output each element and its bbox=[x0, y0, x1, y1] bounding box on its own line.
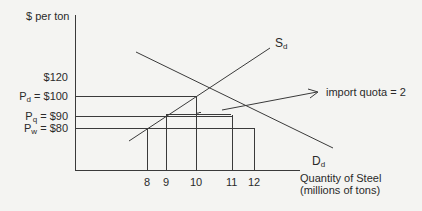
demand-label: Dd bbox=[312, 155, 325, 167]
x-tick-9: 9 bbox=[163, 176, 169, 188]
x-tick-11: 11 bbox=[226, 176, 237, 188]
supply-curve bbox=[129, 48, 270, 141]
y-tick-pd: Pd = $100 bbox=[10, 90, 68, 102]
steel-import-quota-chart: $ per ton $120 Pd = $100 Pq = $90 Pw = $… bbox=[0, 0, 422, 211]
supply-symbol: S bbox=[275, 36, 283, 50]
pd-value: = $100 bbox=[31, 90, 68, 102]
pw-value: = $80 bbox=[37, 122, 68, 134]
pq-symbol: P bbox=[25, 110, 32, 122]
supply-subscript: d bbox=[283, 42, 287, 51]
x-tick-10: 10 bbox=[190, 176, 202, 188]
x-axis-label-line2: (millions of tons) bbox=[300, 184, 380, 196]
y-tick-pw: Pw = $80 bbox=[10, 122, 68, 134]
demand-curve bbox=[136, 52, 333, 148]
pd-symbol: P bbox=[19, 90, 26, 102]
pq-value: = $90 bbox=[37, 110, 68, 122]
y-axis-label: $ per ton bbox=[26, 10, 69, 22]
supply-label: Sd bbox=[275, 37, 287, 49]
x-tick-8: 8 bbox=[144, 176, 150, 188]
y-tick-pq: Pq = $90 bbox=[10, 110, 68, 122]
demand-symbol: D bbox=[312, 154, 321, 168]
demand-subscript: d bbox=[321, 160, 325, 169]
x-axis-label-line1: Quantity of Steel bbox=[300, 172, 381, 184]
y-tick-120: $120 bbox=[30, 71, 68, 83]
quota-annotation: import quota = 2 bbox=[326, 86, 406, 98]
x-tick-12: 12 bbox=[248, 176, 260, 188]
